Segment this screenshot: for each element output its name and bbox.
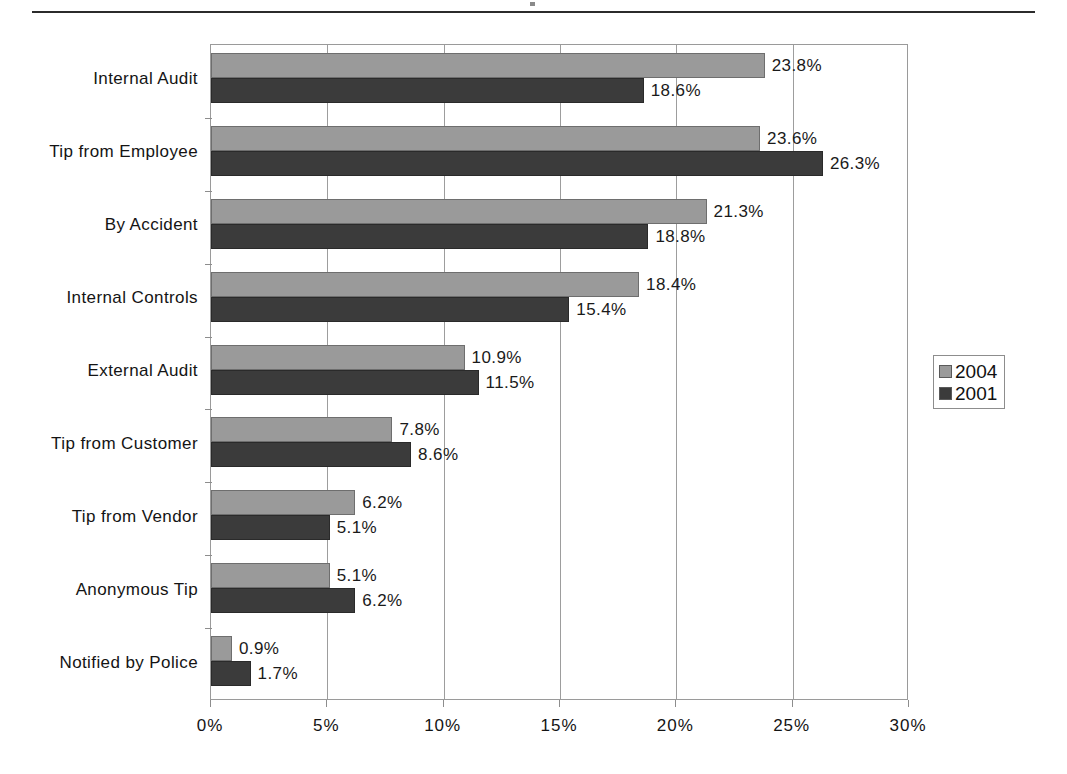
bar-2001-tip-from-customer[interactable] [211, 442, 411, 467]
value-tick [210, 700, 211, 707]
bar-group: 21.3%18.8% [211, 191, 907, 264]
bar-group: 0.9%1.7% [211, 628, 907, 701]
value-tick [908, 700, 909, 707]
value-axis: 0%5%10%15%20%25%30% [210, 700, 908, 752]
value-tick [443, 700, 444, 707]
category-label-tip-from-vendor: Tip from Vendor [8, 507, 198, 527]
category-label-external-audit: External Audit [8, 361, 198, 381]
bar-2004-internal-audit[interactable] [211, 53, 765, 78]
bar-value-label: 23.8% [772, 53, 822, 78]
value-tick [675, 700, 676, 707]
bar-2004-tip-from-employee[interactable] [211, 126, 760, 151]
bar-value-label: 5.1% [337, 563, 377, 588]
category-axis-labels: Internal AuditTip from EmployeeBy Accide… [0, 44, 198, 700]
category-label-notified-by-police: Notified by Police [8, 653, 198, 673]
bar-2001-internal-audit[interactable] [211, 78, 644, 103]
bar-chart-figure: Internal AuditTip from EmployeeBy Accide… [0, 0, 1067, 774]
value-tick-label: 10% [424, 716, 461, 736]
bar-value-label: 8.6% [418, 442, 458, 467]
category-label-internal-audit: Internal Audit [8, 69, 198, 89]
plot-area: 23.8%18.6%23.6%26.3%21.3%18.8%18.4%15.4%… [210, 44, 908, 700]
bar-value-label: 0.9% [239, 636, 279, 661]
bar-2001-tip-from-vendor[interactable] [211, 515, 330, 540]
value-tick [326, 700, 327, 707]
legend-item-2004[interactable]: 2004 [939, 360, 997, 382]
value-tick [792, 700, 793, 707]
bar-value-label: 26.3% [830, 151, 880, 176]
bar-2004-tip-from-vendor[interactable] [211, 490, 355, 515]
bar-group: 23.8%18.6% [211, 45, 907, 118]
legend-item-2001[interactable]: 2001 [939, 382, 997, 404]
bar-2004-internal-controls[interactable] [211, 272, 639, 297]
bar-value-label: 18.4% [646, 272, 696, 297]
category-label-internal-controls: Internal Controls [8, 288, 198, 308]
bar-value-label: 15.4% [576, 297, 626, 322]
bar-group: 23.6%26.3% [211, 118, 907, 191]
legend-label-2004: 2004 [955, 362, 997, 381]
category-label-tip-from-customer: Tip from Customer [8, 434, 198, 454]
bar-group: 5.1%6.2% [211, 555, 907, 628]
bar-2004-tip-from-customer[interactable] [211, 417, 392, 442]
value-tick-label: 0% [197, 716, 224, 736]
bar-2001-internal-controls[interactable] [211, 297, 569, 322]
legend-label-2001: 2001 [955, 384, 997, 403]
category-label-tip-from-employee: Tip from Employee [8, 142, 198, 162]
bar-2001-by-accident[interactable] [211, 224, 648, 249]
value-tick-label: 30% [889, 716, 926, 736]
bar-value-label: 7.8% [399, 417, 439, 442]
bar-2004-anonymous-tip[interactable] [211, 563, 330, 588]
bar-2004-external-audit[interactable] [211, 345, 465, 370]
bar-value-label: 6.2% [362, 490, 402, 515]
bar-group: 7.8%8.6% [211, 409, 907, 482]
category-label-anonymous-tip: Anonymous Tip [8, 580, 198, 600]
value-tick-label: 5% [313, 716, 340, 736]
legend-swatch-2004-icon [939, 365, 952, 378]
bar-value-label: 23.6% [767, 126, 817, 151]
bar-value-label: 11.5% [486, 370, 535, 395]
bar-value-label: 6.2% [362, 588, 402, 613]
value-tick-label: 15% [540, 716, 577, 736]
legend-swatch-2001-icon [939, 387, 952, 400]
bar-value-label: 5.1% [337, 515, 377, 540]
bar-value-label: 18.6% [651, 78, 701, 103]
bar-value-label: 21.3% [714, 199, 764, 224]
bar-2001-external-audit[interactable] [211, 370, 479, 395]
category-label-by-accident: By Accident [8, 215, 198, 235]
bar-2004-by-accident[interactable] [211, 199, 707, 224]
bar-value-label: 1.7% [258, 661, 298, 686]
bar-group: 6.2%5.1% [211, 482, 907, 555]
bar-2001-anonymous-tip[interactable] [211, 588, 355, 613]
bar-group: 10.9%11.5% [211, 337, 907, 410]
bar-value-label: 18.8% [655, 224, 705, 249]
bar-2001-notified-by-police[interactable] [211, 661, 251, 686]
chart-legend: 2004 2001 [933, 355, 1005, 409]
bar-2001-tip-from-employee[interactable] [211, 151, 823, 176]
value-tick-label: 20% [657, 716, 694, 736]
value-tick [559, 700, 560, 707]
value-tick-label: 25% [773, 716, 810, 736]
bar-value-label: 10.9% [472, 345, 522, 370]
bar-2004-notified-by-police[interactable] [211, 636, 232, 661]
bar-group: 18.4%15.4% [211, 264, 907, 337]
